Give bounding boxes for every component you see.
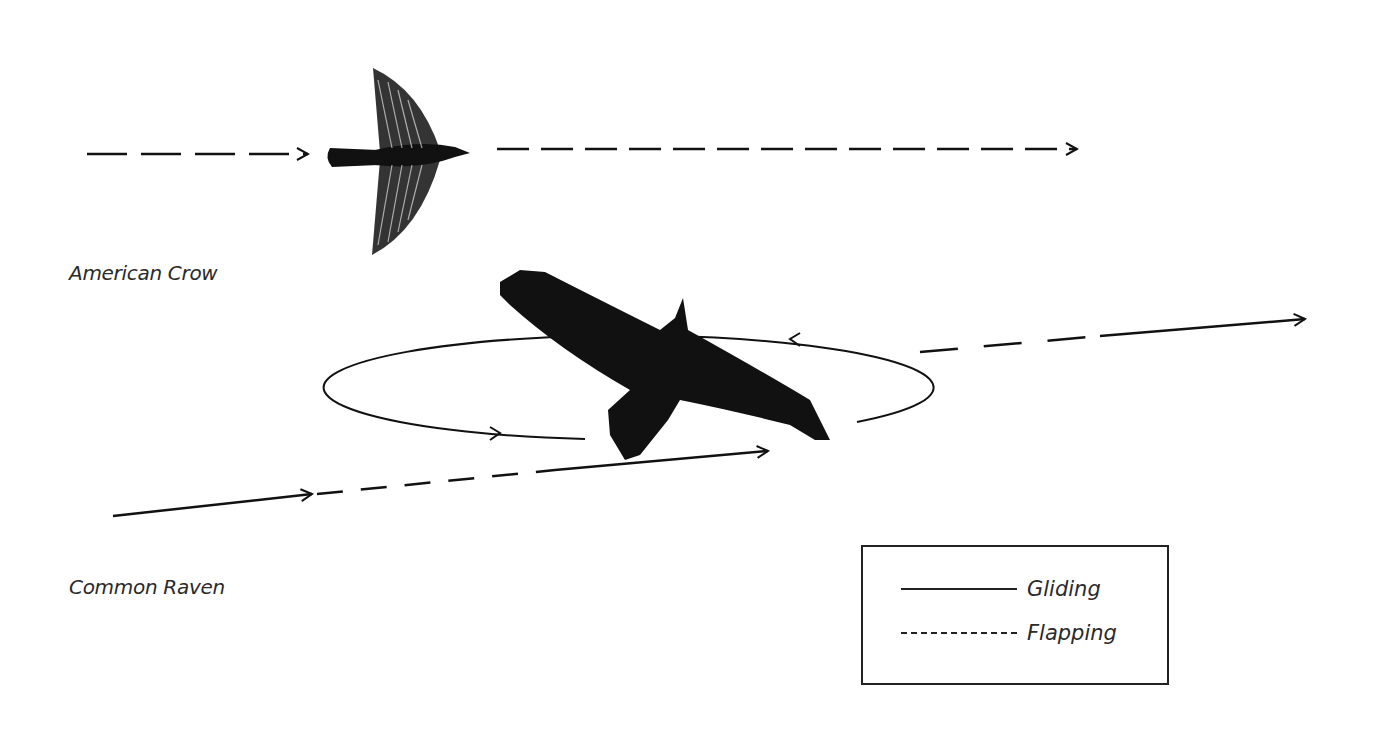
flight-diagram: [0, 0, 1376, 731]
common-raven-label: Common Raven: [69, 575, 225, 599]
crow-flight-path: [87, 149, 1077, 154]
common-raven-icon: [500, 270, 830, 460]
legend: Gliding Flapping: [861, 545, 1169, 685]
american-crow-icon: [327, 68, 470, 255]
legend-item-flapping: Flapping: [901, 621, 1117, 645]
raven-flight-path-out: [920, 319, 1305, 352]
legend-label: Gliding: [1027, 577, 1101, 601]
dashed-line-icon: [901, 632, 1017, 634]
american-crow-label: American Crow: [69, 261, 217, 285]
legend-item-gliding: Gliding: [901, 577, 1101, 601]
raven-flight-path-in: [113, 451, 768, 516]
legend-label: Flapping: [1027, 621, 1117, 645]
solid-line-icon: [901, 588, 1017, 590]
